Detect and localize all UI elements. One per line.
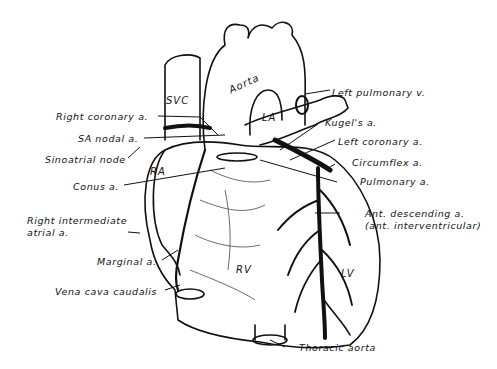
- label-la: LA: [262, 112, 276, 123]
- label-right-intermediate-atrial-line2: atrial a.: [27, 227, 69, 238]
- lv-branch-1: [320, 190, 350, 245]
- label-svc: SVC: [166, 95, 189, 106]
- label-thoracic-aorta: Thoracic aorta: [299, 342, 376, 353]
- thoracic-aorta-stump: [255, 325, 285, 340]
- label-marginal-artery: Marginal a.: [97, 256, 157, 267]
- right-coronary-course: [176, 150, 205, 290]
- label-circumflex-artery: Circumflex a.: [352, 157, 423, 168]
- label-conus-artery: Conus a.: [73, 181, 119, 192]
- left-coronary-vessel: [275, 140, 330, 170]
- label-pulmonary-artery: Pulmonary a.: [360, 176, 430, 187]
- label-right-intermediate-atrial-line1: Right intermediate: [27, 215, 127, 226]
- aorta-outline: [203, 22, 305, 150]
- label-ra: RA: [150, 166, 166, 177]
- label-kugels-artery: Kugel's a.: [325, 117, 377, 128]
- vena-cava-caudalis-opening: [176, 289, 204, 299]
- label-lv: LV: [341, 268, 355, 279]
- sa-nodal-vessel: [165, 125, 210, 128]
- pulmonary-trunk-opening: [217, 153, 257, 161]
- label-left-pulmonary-vein: Left pulmonary v.: [332, 87, 425, 98]
- label-ant-descending-artery-line1: Ant. descending a.: [365, 208, 465, 219]
- label-ant-descending-artery-line2: (ant. interventricular): [365, 220, 481, 231]
- diagonal-branch-1: [278, 200, 319, 230]
- diagonal-branch-3: [295, 260, 321, 312]
- label-right-coronary-artery: Right coronary a.: [56, 111, 148, 122]
- label-left-coronary-artery: Left coronary a.: [338, 136, 423, 147]
- label-sa-nodal-artery: SA nodal a.: [78, 133, 138, 144]
- label-vena-cava-caudalis: Vena cava caudalis: [55, 286, 157, 297]
- heart-diagram: Aorta SVC LA RA RV LV Right coronary a. …: [0, 0, 497, 369]
- label-sinoatrial-node: Sinoatrial node: [45, 154, 126, 165]
- label-rv: RV: [236, 264, 252, 275]
- lv-branch-3: [324, 300, 350, 335]
